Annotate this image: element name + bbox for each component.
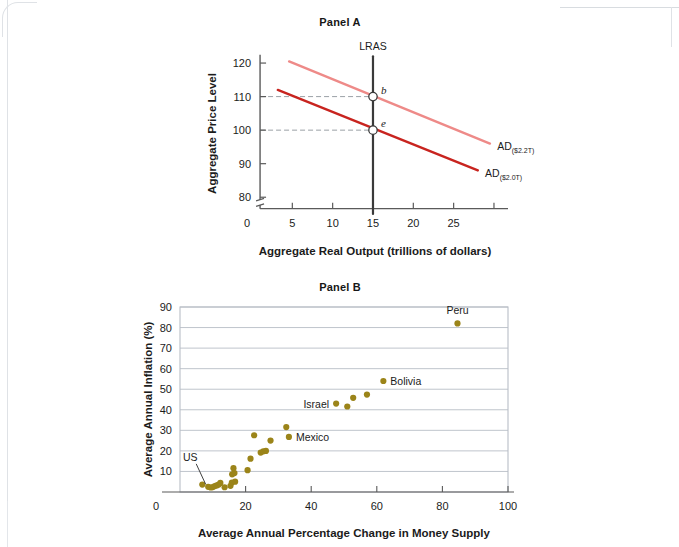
panel-b-point-label-Bolivia: Bolivia xyxy=(390,375,421,387)
panel-b-label-leader xyxy=(196,464,206,485)
panel-b-point-label-US: US xyxy=(183,451,198,463)
panel-b-y-tick-label: 50 xyxy=(160,383,172,395)
panel-b-y-axis-title: Average Annual Inflation (%) xyxy=(142,321,154,477)
panel-b-y-tick-label: 20 xyxy=(160,445,172,457)
panel-a-y-tick-label: 110 xyxy=(234,91,252,103)
panel-b-data-point xyxy=(263,448,269,454)
panel-b-x-tick-label: 80 xyxy=(436,500,448,512)
panel-b-data-point xyxy=(283,424,289,430)
panel-b-point-labels: USMexicoIsraelBoliviaPeru xyxy=(183,304,469,484)
panel-a-labels: beLRASAD($2.2T)AD($2.0T) xyxy=(359,40,534,182)
panel-b-data-point xyxy=(251,432,257,438)
panel-b-y-tick-label: 80 xyxy=(160,322,172,334)
panel-a-y-tick-label: 90 xyxy=(239,158,251,170)
panel-a-equilibrium-point-e xyxy=(369,126,377,134)
panel-b-point-label-Israel: Israel xyxy=(303,398,329,410)
panel-b-x-axis: 020406080100 xyxy=(153,486,517,512)
y-axis-break-icon xyxy=(256,198,264,206)
panel-a-x-tick-label: 15 xyxy=(367,217,379,229)
panel-a-y-axis-title: Aggregate Price Level xyxy=(206,73,218,194)
panel-b-x-tick-label: 20 xyxy=(239,500,251,512)
panel-a-x-tick-label: 0 xyxy=(244,217,250,229)
panel-b-point-label-Mexico: Mexico xyxy=(296,431,329,443)
panel-b-data-point xyxy=(344,403,350,409)
panel-b-y-tick-label: 70 xyxy=(160,342,172,354)
panel-b-data-point xyxy=(454,320,460,326)
panel-a-equilibrium-label-b: b xyxy=(381,84,387,96)
panel-b-y-tick-label: 90 xyxy=(160,301,172,313)
panel-a-x-tick-label: 5 xyxy=(289,217,295,229)
panel-b-x-axis-title: Average Annual Percentage Change in Mone… xyxy=(198,527,490,539)
panel-b-data-point xyxy=(232,479,238,485)
panel-a-x-axis-title: Aggregate Real Output (trillions of doll… xyxy=(259,245,492,257)
panel-a-dashed-guides xyxy=(260,97,373,131)
panel-b-y-tick-label: 10 xyxy=(160,465,172,477)
panel-b-chart: 102030405060708090 020406080100 USMexico… xyxy=(0,280,679,547)
panel-a-curves xyxy=(278,56,490,214)
panel-a-equilibrium-label-e: e xyxy=(381,117,386,129)
panel-b-frame-rect xyxy=(180,307,508,492)
panel-b-data-point xyxy=(350,395,356,401)
panel-b-data-point xyxy=(222,484,228,490)
panel-b-data-point xyxy=(333,401,339,407)
panel-b-y-tick-label: 40 xyxy=(160,404,172,416)
panel-a-x-tick-label: 25 xyxy=(448,217,460,229)
panel-a-x-tick-label: 10 xyxy=(327,217,339,229)
panel-a-y-tick-label: 100 xyxy=(233,124,251,136)
panel-a-y-tick-label: 80 xyxy=(239,191,251,203)
panel-a-x-axis: 0510152025 xyxy=(244,203,508,229)
panel-b-x-tick-label: 100 xyxy=(499,500,517,512)
panel-b-y-tick-label: 60 xyxy=(160,363,172,375)
panel-b-data-point xyxy=(231,470,237,476)
panel-b-data-point xyxy=(364,391,370,397)
panel-b-data-point xyxy=(244,467,250,473)
panel-b-x-tick-label: 0 xyxy=(153,500,159,512)
panel-a-ad-label-1: AD($2.0T) xyxy=(485,167,522,182)
panel-b-x-tick-label: 40 xyxy=(305,500,317,512)
panel-b-data-points xyxy=(199,320,460,490)
panel-a-lras-label: LRAS xyxy=(359,40,386,52)
panel-b-y-axis: 102030405060708090 xyxy=(160,301,172,477)
panel-b-gridlines xyxy=(180,307,508,471)
panel-a-x-tick-label: 20 xyxy=(407,217,419,229)
panel-b-plot-frame xyxy=(180,307,508,492)
scanned-page: Panel A Panel B 8090100110120 0510152025… xyxy=(0,0,679,547)
panel-a-y-axis: 8090100110120 xyxy=(233,55,266,209)
panel-b-data-point xyxy=(286,434,292,440)
panel-b-y-tick-label: 30 xyxy=(160,424,172,436)
panel-a-series-ad-1 xyxy=(289,61,490,143)
panel-b-data-point xyxy=(380,378,386,384)
panel-b-x-tick-label: 60 xyxy=(371,500,383,512)
panel-b-data-point xyxy=(247,456,253,462)
panel-b-point-label-Peru: Peru xyxy=(446,304,468,316)
panel-a-ad-label-0: AD($2.2T) xyxy=(497,140,534,155)
panel-b-data-point xyxy=(267,438,273,444)
panel-a-equilibrium-point-b xyxy=(369,92,377,100)
panel-a-chart: 8090100110120 0510152025 beLRASAD($2.2T)… xyxy=(0,0,679,280)
panel-a-y-tick-label: 120 xyxy=(233,57,251,69)
